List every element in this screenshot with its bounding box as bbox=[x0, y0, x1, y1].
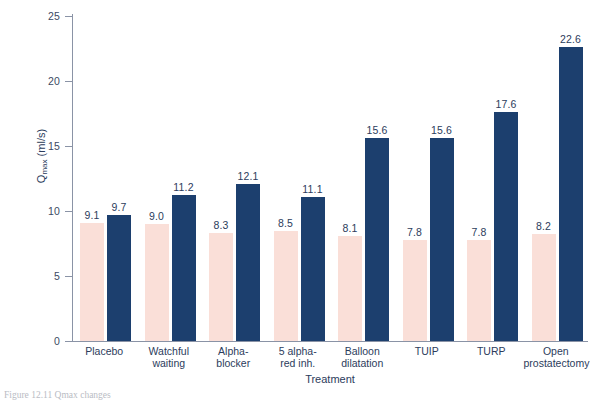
x-axis-title: Treatment bbox=[72, 373, 588, 385]
bar-groups: 9.19.79.011.28.312.18.511.18.115.67.815.… bbox=[72, 16, 588, 341]
bar-value-label: 15.6 bbox=[366, 124, 387, 136]
bar-value-label: 15.6 bbox=[431, 124, 452, 136]
x-axis-category-label: Alpha-blocker bbox=[201, 345, 266, 369]
figure-caption: Figure 12.11 Qmax changes bbox=[4, 390, 604, 400]
y-axis-tick-label: 0 bbox=[54, 335, 60, 347]
bar-value-label: 11.2 bbox=[173, 181, 193, 193]
y-axis-title-sub: max bbox=[40, 159, 49, 174]
bar-value-label: 8.2 bbox=[536, 220, 551, 232]
category-label-line: Alpha- bbox=[201, 345, 266, 357]
category-label-line: Watchful bbox=[137, 345, 202, 357]
bar-group: 8.312.1 bbox=[201, 16, 266, 341]
bar-value-label: 11.1 bbox=[302, 183, 322, 195]
y-axis-tick bbox=[65, 341, 72, 342]
x-axis-category-labels: PlaceboWatchfulwaitingAlpha-blocker5 alp… bbox=[72, 345, 588, 375]
x-axis-category-label: Placebo bbox=[72, 345, 137, 357]
bar-post-treatment: 12.1 bbox=[236, 184, 260, 341]
y-axis-tick bbox=[65, 276, 72, 277]
bar-pre-treatment: 9.1 bbox=[80, 223, 104, 341]
bar-value-label: 7.8 bbox=[407, 226, 422, 238]
x-axis-category-label: TURP bbox=[459, 345, 524, 357]
y-axis-tick bbox=[65, 211, 72, 212]
y-axis-tick-label: 25 bbox=[48, 10, 60, 22]
bar-value-label: 17.6 bbox=[495, 98, 516, 110]
bar-post-treatment: 11.2 bbox=[172, 195, 196, 341]
bar-pre-treatment: 7.8 bbox=[403, 240, 427, 341]
bar-group: 9.011.2 bbox=[137, 16, 202, 341]
bar-pre-treatment: 7.8 bbox=[467, 240, 491, 341]
bar-post-treatment: 15.6 bbox=[365, 138, 389, 341]
bar-group: 7.817.6 bbox=[459, 16, 524, 341]
y-axis-tick bbox=[65, 146, 72, 147]
y-axis-tick bbox=[65, 81, 72, 82]
category-label-line: Balloon bbox=[330, 345, 395, 357]
bar-post-treatment: 9.7 bbox=[107, 215, 131, 341]
bar-pre-treatment: 9.0 bbox=[145, 224, 169, 341]
category-label-line: prostatectomy bbox=[524, 357, 589, 369]
bar-pre-treatment: 8.2 bbox=[532, 234, 556, 341]
bar-value-label: 8.1 bbox=[342, 222, 357, 234]
y-axis-tick-label: 5 bbox=[54, 270, 60, 282]
bar-value-label: 9.0 bbox=[149, 210, 164, 222]
x-axis-category-label: 5 alpha-red inh. bbox=[266, 345, 331, 369]
y-axis-tick-label: 20 bbox=[48, 75, 60, 87]
bar-value-label: 8.3 bbox=[213, 219, 228, 231]
bar-group: 8.222.6 bbox=[524, 16, 589, 341]
bar-pre-treatment: 8.1 bbox=[338, 236, 362, 341]
category-label-line: red inh. bbox=[266, 357, 331, 369]
bar-post-treatment: 17.6 bbox=[494, 112, 518, 341]
category-label-line: TURP bbox=[459, 345, 524, 357]
bar-pre-treatment: 8.3 bbox=[209, 233, 233, 341]
category-label-line: 5 alpha- bbox=[266, 345, 331, 357]
y-axis-tick bbox=[65, 16, 72, 17]
bar-value-label: 22.6 bbox=[560, 33, 581, 45]
bar-group: 9.19.7 bbox=[72, 16, 137, 341]
y-axis-tick-label: 10 bbox=[48, 205, 60, 217]
category-label-line: Placebo bbox=[72, 345, 137, 357]
category-label-line: dilatation bbox=[330, 357, 395, 369]
bar-value-label: 8.5 bbox=[278, 217, 293, 229]
category-label-line: Open bbox=[524, 345, 589, 357]
bar-post-treatment: 11.1 bbox=[301, 197, 325, 341]
category-label-line: TUIP bbox=[395, 345, 460, 357]
bar-value-label: 9.7 bbox=[111, 201, 126, 213]
bar-post-treatment: 15.6 bbox=[430, 138, 454, 341]
y-axis-title-base: Q bbox=[35, 175, 47, 184]
bar-pre-treatment: 8.5 bbox=[274, 231, 298, 342]
y-axis-title-unit: (ml/s) bbox=[35, 129, 47, 160]
bar-value-label: 9.1 bbox=[84, 209, 99, 221]
bar-value-label: 7.8 bbox=[471, 226, 486, 238]
x-axis-category-label: Openprostatectomy bbox=[524, 345, 589, 369]
bar-post-treatment: 22.6 bbox=[559, 47, 583, 341]
x-axis-line bbox=[72, 341, 588, 342]
x-axis-category-label: Balloondilatation bbox=[330, 345, 395, 369]
category-label-line: blocker bbox=[201, 357, 266, 369]
x-axis-category-label: Watchfulwaiting bbox=[137, 345, 202, 369]
bar-group: 8.115.6 bbox=[330, 16, 395, 341]
category-label-line: waiting bbox=[137, 357, 202, 369]
figure-container: 0510152025 Qmax (ml/s) 9.19.79.011.28.31… bbox=[0, 0, 607, 401]
bar-value-label: 12.1 bbox=[237, 170, 258, 182]
y-axis-tick-label: 15 bbox=[48, 140, 60, 152]
x-axis-category-label: TUIP bbox=[395, 345, 460, 357]
y-axis-title: Qmax (ml/s) bbox=[35, 96, 47, 216]
bar-group: 7.815.6 bbox=[395, 16, 460, 341]
bar-group: 8.511.1 bbox=[266, 16, 331, 341]
